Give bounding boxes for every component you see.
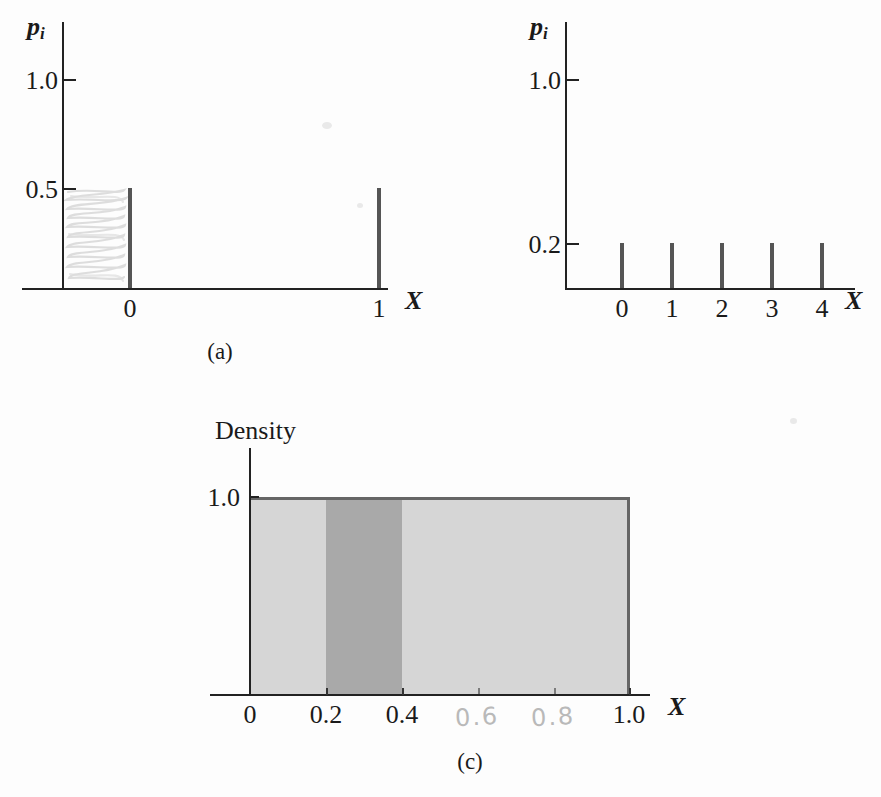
panel-b-spike-x3 [770,243,774,288]
panel-a-spike-x1 [377,188,381,288]
panel-c-xtick-label-0.4: 0.4 [370,702,434,728]
panel-c-xtick-label-0: 0 [230,702,270,728]
panel-c-xtick-0.8 [554,688,556,694]
panel-b-ytick-label-1.0: 1.0 [509,68,561,94]
panel-b-xtick-label-1: 1 [652,296,692,322]
panel-b: pi 1.0 0.2 0 1 2 3 4 X (b) [440,0,881,380]
scan-speck [357,203,363,208]
panel-b-spike-x2 [720,243,724,288]
panel-b-spike-x0 [620,243,624,288]
panel-c-y-axis [249,448,251,696]
panel-a-y-axis [62,22,64,290]
panel-a-xtick-label-0: 0 [110,296,150,322]
panel-a-x-axis [22,288,388,290]
panel-b-xtick-label-4: 4 [802,296,842,322]
panel-c-x-axis-label: X [668,694,685,720]
panel-b-y-axis-label-text: p [530,12,543,41]
panel-c: Density 1.0 0 0.2 0.4 1.0 X 0.6 0.8 (c) [0,400,881,797]
panel-a-x-axis-label: X [405,288,422,314]
panel-c-xtick-label-0.2: 0.2 [294,702,358,728]
panel-a: pi 1.0 0.5 0 1 X (a) [0,0,440,380]
panel-c-xtick-label-1.0: 1.0 [597,702,661,728]
panel-b-ytick-label-0.2: 0.2 [509,232,561,258]
panel-a-ytick-0.5 [62,188,76,190]
panel-a-ytick-label-1.0: 1.0 [6,68,58,94]
panel-a-xtick-label-1: 1 [359,296,399,322]
panel-b-spike-x4 [820,243,824,288]
figure-probability-distributions: pi 1.0 0.5 0 1 X (a) pi 1.0 0.2 0 1 2 3 … [0,0,881,797]
panel-c-y-axis-label: Density [215,418,296,444]
panel-c-caption: (c) [430,750,510,773]
panel-c-ytick-1.0 [249,496,259,498]
panel-b-xtick-label-2: 2 [702,296,742,322]
panel-b-y-axis [565,22,567,290]
panel-a-y-axis-label-text: p [27,12,40,41]
panel-c-xtick-1.0 [629,688,631,695]
panel-a-y-axis-label-subscript: i [40,24,45,43]
panel-a-y-axis-label: pi [27,14,45,42]
panel-b-ytick-1.0 [565,79,579,81]
panel-c-xtick-0.2 [326,688,328,695]
panel-a-caption: (a) [180,340,260,363]
panel-b-xtick-label-3: 3 [752,296,792,322]
panel-c-handwritten-xtick-label-0.8: 0.8 [530,702,576,732]
scan-speck [322,122,332,129]
panel-a-spike-x0 [128,188,132,288]
panel-c-x-axis [210,694,650,696]
panel-b-spike-x1 [670,243,674,288]
panel-a-ytick-1.0 [62,79,76,81]
panel-c-xtick-0.4 [402,688,404,695]
scan-speck [790,418,797,424]
panel-b-y-axis-label-subscript: i [543,24,548,43]
panel-c-density-rectangle [250,497,630,696]
panel-b-ytick-0.2 [565,243,579,245]
pencil-shading-scribble [62,186,130,290]
panel-b-y-axis-label: pi [530,14,548,42]
panel-c-shaded-band [326,500,402,696]
panel-c-ytick-label-1.0: 1.0 [188,485,240,511]
panel-a-ytick-label-0.5: 0.5 [6,177,58,203]
panel-c-xtick-0.6 [478,688,480,694]
panel-b-x-axis-label: X [845,288,862,314]
panel-b-xtick-label-0: 0 [602,296,642,322]
panel-c-handwritten-xtick-label-0.6: 0.6 [454,702,500,732]
panel-b-x-axis [565,288,855,290]
